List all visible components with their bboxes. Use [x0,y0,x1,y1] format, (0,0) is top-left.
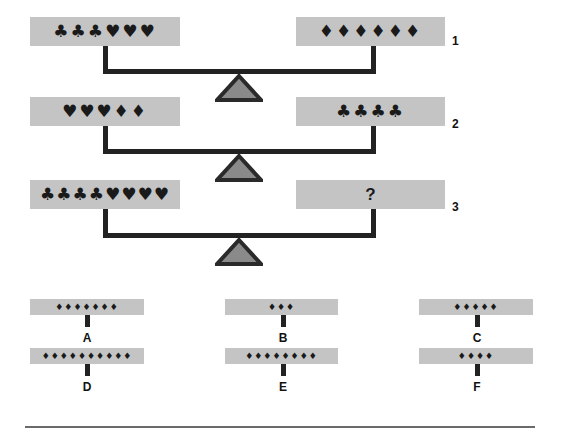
scale-1-right-pan: ♦♦♦♦♦♦ [296,17,445,46]
scale-1-number: 1 [452,34,459,48]
option-d-stem [85,364,90,376]
scale-2-right-pan: ♣♣♣♣ [296,97,445,126]
option-b-stem [281,315,286,327]
option-a-symbols: ♦♦♦♦♦♦♦ [55,303,118,312]
option-c-pan: ♦♦♦♦♦ [419,299,533,315]
scale-2-right-symbols: ♣♣♣♣ [336,103,405,120]
option-f-pan: ♦♦♦♦ [419,348,533,364]
scale-3-number: 3 [452,200,459,214]
option-b-pan: ♦♦♦ [225,299,338,315]
scale-3-left-symbols: ♣♣♣♣♥♥♥♥ [40,186,170,203]
option-e-stem [281,364,286,376]
option-c-symbols: ♦♦♦♦♦ [453,303,498,312]
scale-3-right-pan: ? [296,180,445,209]
scale-1-left-pan: ♣♣♣♥♥♥ [30,17,180,46]
scale-3-left-pan: ♣♣♣♣♥♥♥♥ [30,180,180,209]
option-f-stem [475,364,480,376]
option-c-stem [475,315,480,327]
option-e-symbols: ♦♦♦♦♦♦♦♦ [245,352,318,361]
option-c-label: C [467,331,487,345]
option-e-pan: ♦♦♦♦♦♦♦♦ [225,348,338,364]
option-d-symbols: ♦♦♦♦♦♦♦♦♦♦ [42,352,133,361]
scale-2-left-pan: ♥♥♥♦♦ [30,97,180,126]
option-d-pan: ♦♦♦♦♦♦♦♦♦♦ [30,348,144,364]
option-f-label: F [467,380,487,394]
option-f-symbols: ♦♦♦♦ [458,352,494,361]
option-a-stem [85,315,90,327]
option-e-label: E [273,380,293,394]
scale-1-left-symbols: ♣♣♣♥♥♥ [53,23,156,40]
scale-2-left-symbols: ♥♥♥♦♦ [62,103,148,120]
bottom-divider [25,426,535,428]
option-a-pan: ♦♦♦♦♦♦♦ [30,299,144,315]
option-d-label: D [77,380,97,394]
scale-1-fulcrum-icon [215,74,263,102]
scale-2-fulcrum-icon [215,154,263,182]
scale-2-number: 2 [452,117,459,131]
scale-1-right-symbols: ♦♦♦♦♦♦ [319,23,422,40]
scale-3-fulcrum-icon [215,238,263,266]
option-b-symbols: ♦♦♦ [268,303,295,312]
option-a-label: A [77,331,97,345]
option-b-label: B [273,331,293,345]
scale-3-unknown-mark: ? [365,186,375,203]
